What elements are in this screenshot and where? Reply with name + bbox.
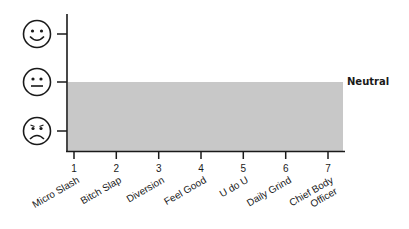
x-tick-label-2: 2: [114, 163, 120, 174]
neutral-face-icon: [24, 69, 51, 96]
x-tick-label-7: 7: [325, 163, 331, 174]
sad-face-icon: [24, 118, 51, 145]
category-label-2: Bitch Slap: [79, 174, 124, 206]
happy-face-icon: [24, 21, 51, 48]
x-tick-label-4: 4: [198, 163, 204, 174]
x-tick-label-5: 5: [241, 163, 247, 174]
category-label-6: Daily Grind: [245, 174, 293, 208]
x-tick-label-1: 1: [71, 163, 77, 174]
category-label-4: Feel Good: [162, 174, 208, 207]
x-tick-label-3: 3: [156, 163, 162, 174]
category-label-5: U do U: [218, 174, 250, 199]
category-label-3: Diversion: [124, 174, 166, 204]
category-label-1: Micro Slash: [30, 174, 81, 210]
neutral-fill-area: [68, 82, 343, 151]
mood-chart: 1 2 3 4 5 6 7 Micro Slash Bitch Slap Div…: [0, 0, 409, 229]
neutral-annotation: Neutral: [347, 76, 389, 87]
x-tick-label-6: 6: [283, 163, 289, 174]
